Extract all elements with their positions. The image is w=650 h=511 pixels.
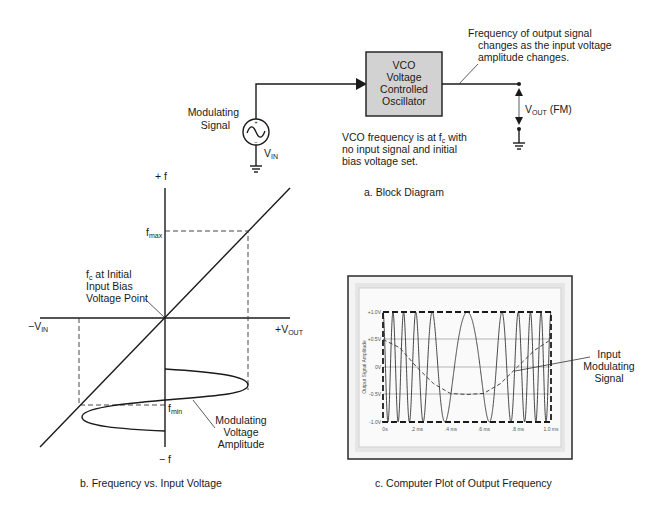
vco-line-2: Voltage: [386, 71, 421, 83]
vco-line-4: Oscillator: [382, 95, 426, 107]
y-tick: +0.5V: [368, 336, 382, 342]
x-tick: .4 ms: [445, 426, 458, 432]
note-top-1: Frequency of output signal: [468, 27, 592, 39]
fc-note-2: Input Bias: [86, 280, 133, 292]
mod-label-2: Voltage: [223, 426, 258, 438]
note-top-3: amplitude changes.: [478, 51, 569, 63]
block-diagram: + − Modulating Signal VIN VCO Voltage Co…: [188, 27, 612, 198]
note-bottom-3: bias voltage set.: [342, 155, 418, 167]
fmin-label: fmin: [168, 402, 182, 415]
y-tick: 0V: [375, 364, 382, 370]
annotation-line-2: Modulating: [583, 360, 635, 372]
fc-note-3: Voltage Point: [86, 292, 148, 304]
freq-vs-voltage-graph: + f − f −VIN +VOUT fmax fmin fc at Initi…: [28, 170, 304, 489]
source-label-1: Modulating: [188, 106, 240, 118]
y-tick: -0.5V: [369, 391, 382, 397]
vco-line-1: VCO: [393, 59, 416, 71]
output-terminal-top: [517, 82, 521, 86]
mod-label-3: Amplitude: [218, 438, 265, 450]
plus-vout-label: +VOUT: [275, 323, 304, 336]
x-tick: .2 ms: [411, 426, 424, 432]
ground-icon: [250, 166, 262, 172]
y-tick: +1.0V: [368, 309, 382, 315]
minus-vin-label: −VIN: [28, 320, 48, 333]
caption-block-diagram: a. Block Diagram: [364, 186, 444, 198]
fmax-guide: [165, 231, 248, 390]
caption-freq-graph: b. Frequency vs. Input Voltage: [80, 477, 222, 489]
up-arrow-icon: [515, 88, 523, 96]
x-tick: 0s: [382, 426, 388, 432]
y-tick: -1.0V: [369, 419, 382, 425]
minus-f-label: − f: [159, 453, 171, 465]
note-leader-line: [459, 64, 478, 84]
mod-leader-line: [193, 400, 215, 428]
input-wire: [256, 84, 360, 119]
annotation-line-3: Signal: [594, 372, 623, 384]
vco-line-3: Controlled: [380, 83, 428, 95]
note-bottom-2: no input signal and initial: [342, 143, 457, 155]
computer-plot: +1.0V +0.5V 0V -0.5V -1.0V Output Signal…: [348, 276, 635, 489]
down-arrow-icon: [515, 117, 523, 125]
caption-computer-plot: c. Computer Plot of Output Frequency: [375, 477, 553, 489]
vout-label: VOUT (FM): [525, 103, 572, 116]
note-top-2: changes as the input voltage: [478, 39, 612, 51]
plus-f-label: + f: [155, 170, 167, 182]
x-tick: .8 ms: [512, 426, 525, 432]
fc-leader-line: [145, 299, 164, 317]
svg-text:+: +: [254, 119, 258, 125]
figure-canvas: + − Modulating Signal VIN VCO Voltage Co…: [0, 0, 650, 511]
source-label-2: Signal: [201, 119, 230, 131]
svg-text:−: −: [254, 139, 258, 145]
mod-label-1: Modulating: [215, 414, 267, 426]
annotation-line-1: Input: [597, 348, 620, 360]
ac-source-icon: + −: [243, 119, 269, 145]
y-axis-title: Output Signal Amplitude: [361, 340, 367, 394]
x-tick: .6 ms: [478, 426, 491, 432]
x-tick: 1.0 ms: [543, 426, 559, 432]
vin-label: VIN: [264, 147, 278, 160]
ground-icon: [513, 143, 525, 149]
fmax-label: fmax: [146, 226, 163, 239]
